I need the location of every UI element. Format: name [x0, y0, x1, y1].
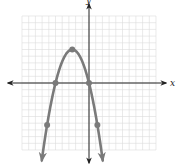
marked-points	[44, 47, 100, 128]
data-point	[86, 80, 92, 86]
parabola-curve	[42, 50, 103, 161]
curve-right-branch	[72, 50, 102, 161]
data-point	[69, 47, 75, 53]
x-axis-label: x	[170, 78, 175, 88]
parabola-graph: x y	[0, 0, 177, 168]
data-point	[94, 122, 100, 128]
curve-left-branch	[42, 50, 72, 161]
data-point	[53, 80, 59, 86]
data-point	[44, 122, 50, 128]
y-axis-label: y	[85, 0, 92, 5]
